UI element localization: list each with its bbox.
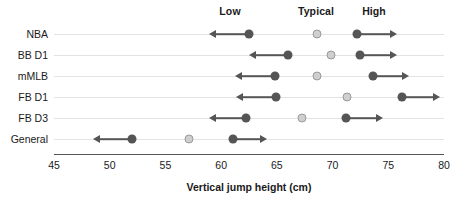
column-header-low: Low xyxy=(219,5,240,17)
high-marker-dot xyxy=(341,114,350,123)
high-range-arrowhead xyxy=(376,114,383,122)
x-tick-label: 80 xyxy=(438,159,450,171)
low-marker-dot xyxy=(284,51,293,60)
typical-marker-dot xyxy=(298,114,307,123)
low-range-arrowhead xyxy=(209,30,216,38)
high-marker-dot xyxy=(356,51,365,60)
high-range-segment xyxy=(402,96,434,98)
category-label-mmlb: mMLB xyxy=(18,70,48,82)
category-label-fb-d1: FB D1 xyxy=(18,91,48,103)
low-marker-dot xyxy=(245,30,254,39)
category-label-fb-d3: FB D3 xyxy=(18,112,48,124)
low-range-arrowhead xyxy=(236,93,243,101)
low-marker-dot xyxy=(270,72,279,81)
low-range-arrowhead xyxy=(93,135,100,143)
high-range-arrowhead xyxy=(260,135,267,143)
typical-marker-dot xyxy=(312,30,321,39)
high-marker-dot xyxy=(353,30,362,39)
category-label-general: General xyxy=(11,133,48,145)
x-tick-label: 60 xyxy=(215,159,227,171)
low-marker-dot xyxy=(128,135,137,144)
typical-marker-dot xyxy=(327,51,336,60)
high-range-arrowhead xyxy=(390,30,397,38)
high-range-arrowhead xyxy=(390,51,397,59)
high-marker-dot xyxy=(368,72,377,81)
high-range-segment xyxy=(346,117,377,119)
high-range-segment xyxy=(373,75,404,77)
column-header-typical: Typical xyxy=(298,5,334,17)
low-range-arrowhead xyxy=(249,51,256,59)
high-range-arrowhead xyxy=(433,93,440,101)
x-axis-line xyxy=(54,154,444,155)
x-tick-label: 45 xyxy=(48,159,60,171)
high-range-segment xyxy=(357,33,391,35)
category-label-nba: NBA xyxy=(26,28,48,40)
x-tick-label: 75 xyxy=(382,159,394,171)
x-axis-title: Vertical jump height (cm) xyxy=(187,181,312,193)
chart-root: Low Typical High NBA BB D1 mMLB FB D1 FB… xyxy=(0,0,462,203)
x-tick-label: 65 xyxy=(271,159,283,171)
x-tick-label: 55 xyxy=(160,159,172,171)
high-marker-dot xyxy=(397,93,406,102)
column-header-high: High xyxy=(362,5,386,17)
typical-marker-dot xyxy=(312,72,321,81)
low-range-arrowhead xyxy=(209,114,216,122)
high-range-arrowhead xyxy=(402,72,409,80)
typical-marker-dot xyxy=(343,93,352,102)
low-range-arrowhead xyxy=(235,72,242,80)
low-marker-dot xyxy=(271,93,280,102)
high-range-segment xyxy=(360,54,391,56)
typical-marker-dot xyxy=(184,135,193,144)
x-tick-label: 50 xyxy=(104,159,116,171)
low-marker-dot xyxy=(241,114,250,123)
category-label-bb-d1: BB D1 xyxy=(18,49,48,61)
x-tick-label: 70 xyxy=(327,159,339,171)
high-marker-dot xyxy=(229,135,238,144)
